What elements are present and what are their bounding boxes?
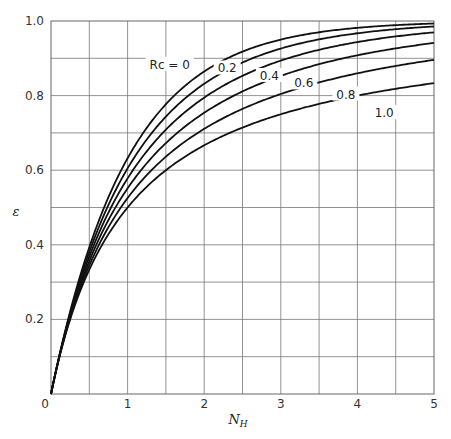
x-axis-ticks: 012345	[41, 397, 438, 411]
curve-label: 0.8	[336, 88, 355, 102]
x-tick-label: 2	[200, 397, 208, 411]
y-tick-label: 0.6	[25, 163, 44, 177]
curve-label: Rc = 0	[150, 58, 190, 72]
x-tick-label: 0	[41, 397, 49, 411]
y-axis-ticks: 0.20.40.60.81.0	[25, 14, 44, 326]
curve-labels: Rc = 00.20.40.60.81.0	[146, 57, 398, 120]
x-tick-label: 1	[124, 397, 132, 411]
x-tick-label: 4	[354, 397, 362, 411]
x-axis-label: NH	[227, 412, 247, 429]
curve-label: 0.6	[294, 76, 313, 90]
effectiveness-chart: Rc = 00.20.40.60.81.0 012345 0.20.40.60.…	[0, 0, 451, 439]
x-tick-label: 3	[277, 397, 285, 411]
curve-label: 1.0	[375, 106, 394, 120]
y-tick-label: 0.4	[25, 238, 44, 252]
y-tick-label: 0.8	[25, 89, 44, 103]
y-tick-label: 0.2	[25, 312, 44, 326]
x-tick-label: 5	[430, 397, 438, 411]
y-tick-label: 1.0	[25, 14, 44, 28]
curve-label: 0.2	[218, 61, 237, 75]
grid-lines	[51, 21, 434, 394]
curve-label: 0.4	[260, 69, 279, 83]
y-axis-label: ε	[13, 204, 20, 219]
